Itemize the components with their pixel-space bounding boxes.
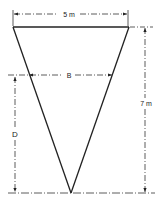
triangle-tank-diagram: 5 m 7 m B D — [0, 0, 163, 207]
height-label: 7 m — [140, 100, 152, 107]
water-depth-label: D — [12, 130, 18, 139]
height-dimension — [130, 27, 153, 192]
triangle-outline — [13, 27, 129, 193]
water-width-label: B — [67, 72, 72, 79]
top-width-label: 5 m — [63, 11, 75, 18]
